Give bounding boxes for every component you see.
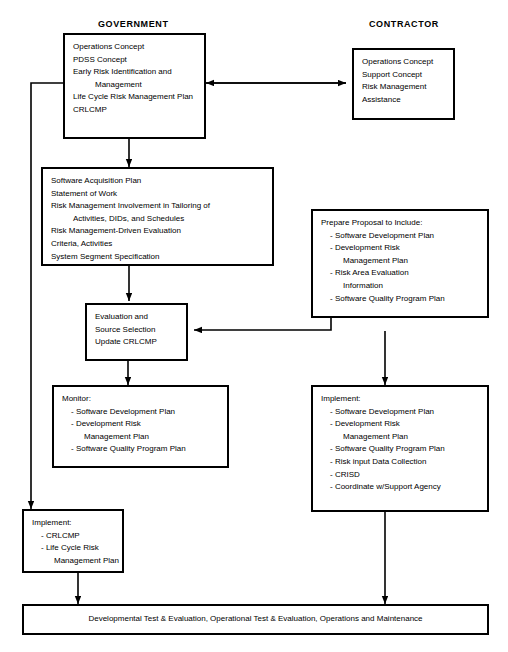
box-line: - Software Development Plan xyxy=(62,406,227,419)
box-line: Implement: xyxy=(321,393,487,406)
box-line: Management Plan xyxy=(32,555,122,568)
box-evaluation-source-selection[interactable]: Evaluation and Source Selection Update C… xyxy=(85,303,188,361)
box-line: Management Plan xyxy=(62,431,227,444)
box-line: CRLCMP xyxy=(73,104,204,117)
column-title-contractor: CONTRACTOR xyxy=(369,19,439,29)
box-line: - Development Risk xyxy=(321,418,487,431)
box-monitor[interactable]: Monitor: - Software Development Plan - D… xyxy=(52,385,229,468)
box-line: Criteria, Activities xyxy=(51,238,272,251)
box-line: Support Concept xyxy=(362,69,453,82)
box-line: Source Selection xyxy=(95,324,186,337)
box-line: Information xyxy=(321,280,487,293)
box-line: - Risk input Data Collection xyxy=(321,456,487,469)
bottom-bar-label: Developmental Test & Evaluation, Operati… xyxy=(88,613,422,626)
wire-proposal-to-evaluation xyxy=(194,318,331,330)
box-line: - Software Quality Program Plan xyxy=(321,443,487,456)
box-line: PDSS Concept xyxy=(73,54,204,67)
box-line: Update CRLCMP xyxy=(95,336,186,349)
column-title-government: GOVERNMENT xyxy=(98,19,169,29)
box-line: - Development Risk xyxy=(321,242,487,255)
box-line: Statement of Work xyxy=(51,188,272,201)
box-line: Risk Management-Driven Evaluation xyxy=(51,225,272,238)
box-line: - Life Cycle Risk xyxy=(32,542,122,555)
box-line: Management xyxy=(73,79,204,92)
box-line: Early Risk Identification and xyxy=(73,66,204,79)
box-contractor-implement[interactable]: Implement: - Software Development Plan -… xyxy=(311,385,489,512)
box-line: - Software Development Plan xyxy=(321,406,487,419)
box-line: Management Plan xyxy=(321,431,487,444)
box-software-acquisition[interactable]: Software Acquisition Plan Statement of W… xyxy=(41,167,274,266)
box-line: - Software Quality Program Plan xyxy=(321,293,487,306)
box-gov-implement[interactable]: Implement: - CRLCMP - Life Cycle Risk Ma… xyxy=(22,509,124,573)
box-line: Operations Concept xyxy=(362,56,453,69)
box-gov-concepts-lines: Operations Concept PDSS Concept Early Ri… xyxy=(65,35,204,117)
box-line: Evaluation and xyxy=(95,311,186,324)
box-line: System Segment Specification xyxy=(51,251,272,264)
box-line: Monitor: xyxy=(62,393,227,406)
box-contractor-implement-lines: Implement: - Software Development Plan -… xyxy=(313,387,487,494)
box-line: Operations Concept xyxy=(73,41,204,54)
box-prepare-proposal[interactable]: Prepare Proposal to Include: - Software … xyxy=(311,209,489,318)
box-software-acquisition-lines: Software Acquisition Plan Statement of W… xyxy=(43,169,272,263)
box-line: - CRLCMP xyxy=(32,530,122,543)
box-line: Implement: xyxy=(32,517,122,530)
box-line: - Software Development Plan xyxy=(321,230,487,243)
box-gov-concepts[interactable]: Operations Concept PDSS Concept Early Ri… xyxy=(63,33,206,139)
box-line: Activities, DIDs, and Schedules xyxy=(51,213,272,226)
flowchart-canvas: GOVERNMENT CONTRACTOR xyxy=(0,0,508,652)
box-line: Prepare Proposal to Include: xyxy=(321,217,487,230)
box-gov-implement-lines: Implement: - CRLCMP - Life Cycle Risk Ma… xyxy=(24,511,122,567)
box-line: - Software Quality Program Plan xyxy=(62,443,227,456)
box-contractor-concepts-lines: Operations Concept Support Concept Risk … xyxy=(354,50,453,106)
box-line: - Development Risk xyxy=(62,418,227,431)
box-line: Risk Management xyxy=(362,81,453,94)
box-line: - CRISD xyxy=(321,469,487,482)
box-line: - Risk Area Evaluation xyxy=(321,267,487,280)
box-test-evaluation-operations[interactable]: Developmental Test & Evaluation, Operati… xyxy=(22,604,489,635)
box-monitor-lines: Monitor: - Software Development Plan - D… xyxy=(54,387,227,456)
box-line: - Coordinate w/Support Agency xyxy=(321,481,487,494)
box-prepare-proposal-lines: Prepare Proposal to Include: - Software … xyxy=(313,211,487,305)
box-line: Software Acquisition Plan xyxy=(51,175,272,188)
box-line: Assistance xyxy=(362,94,453,107)
box-line: Management Plan xyxy=(321,255,487,268)
box-contractor-concepts[interactable]: Operations Concept Support Concept Risk … xyxy=(352,48,455,120)
box-evaluation-lines: Evaluation and Source Selection Update C… xyxy=(87,305,186,349)
box-line: Risk Management Involvement in Tailoring… xyxy=(51,200,272,213)
box-line: Life Cycle Risk Management Plan xyxy=(73,91,204,104)
